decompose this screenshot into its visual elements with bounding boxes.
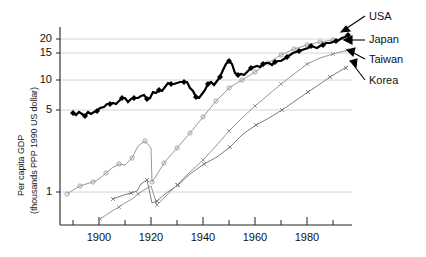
x-tick-label-1960: 1960 xyxy=(235,231,275,243)
gdp-log-chart xyxy=(0,0,426,257)
x-tick-label-1980: 1980 xyxy=(287,231,327,243)
chart-background xyxy=(0,0,426,257)
y-tick-label-15: 15 xyxy=(30,46,52,58)
y-tick-label-1: 1 xyxy=(30,185,52,197)
series-label-usa: USA xyxy=(369,10,392,22)
series-label-korea: Korea xyxy=(369,74,398,86)
x-tick-label-1920: 1920 xyxy=(131,231,171,243)
y-tick-label-5: 5 xyxy=(30,103,52,115)
y-tick-label-20: 20 xyxy=(30,32,52,44)
series-label-japan: Japan xyxy=(369,33,399,45)
y-tick-label-10: 10 xyxy=(30,73,52,85)
x-tick-label-1900: 1900 xyxy=(79,231,119,243)
series-label-taiwan: Taiwan xyxy=(369,53,403,65)
y-axis-label-line1: Per capita GDP xyxy=(16,135,26,196)
x-tick-label-1940: 1940 xyxy=(183,231,223,243)
